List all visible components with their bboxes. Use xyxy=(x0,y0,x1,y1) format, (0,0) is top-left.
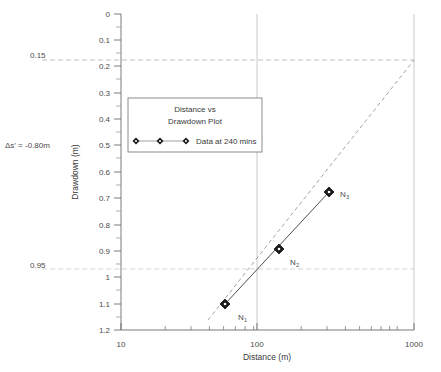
legend-title-line1: Distance vs xyxy=(174,105,215,114)
point-label-n2: N 2 xyxy=(290,258,299,268)
point-label-n3: N 3 xyxy=(340,190,349,200)
y-tick-label-0.4: 0.4 xyxy=(99,115,111,124)
y-tick-label-0.1: 0.1 xyxy=(99,36,111,45)
legend-entry-label: Data at 240 mins xyxy=(196,137,256,146)
reference-label-0.15: 0.15 xyxy=(30,51,46,60)
y-axis-title: Drawdown (m) xyxy=(70,144,80,199)
y-tick-label-1.1: 1.1 xyxy=(99,300,111,309)
point-label-n2-sub: 2 xyxy=(296,262,299,268)
chart-legend: Distance vs Drawdown Plot Data at 240 mi… xyxy=(128,98,262,152)
y-tick-label-0.2: 0.2 xyxy=(99,62,111,71)
distance-vs-drawdown-chart: 0 0.1 0.2 0.3 0.4 0.5 0.6 0.7 0.8 0.9 1 … xyxy=(0,0,441,372)
x-axis-title: Distance (m) xyxy=(243,352,291,362)
delta-s-annotation: Δs' = -0.80m xyxy=(5,141,50,150)
legend-title-line2: Drawdown Plot xyxy=(168,117,223,126)
data-point-n2[interactable] xyxy=(274,244,284,254)
y-tick-label-0.5: 0.5 xyxy=(99,141,111,150)
x-tick-label-1000: 1000 xyxy=(405,340,423,349)
y-tick-label-0.9: 0.9 xyxy=(99,247,111,256)
point-label-n1-sub: 1 xyxy=(244,317,247,323)
y-tick-label-1.2: 1.2 xyxy=(99,326,111,335)
point-label-n1: N 1 xyxy=(238,313,247,323)
y-tick-label-0.7: 0.7 xyxy=(99,194,111,203)
y-axis-major-ticks xyxy=(114,14,121,330)
point-label-n3-sub: 3 xyxy=(346,194,349,200)
x-tick-label-10: 10 xyxy=(117,340,126,349)
chart-svg: 0 0.1 0.2 0.3 0.4 0.5 0.6 0.7 0.8 0.9 1 … xyxy=(0,0,441,372)
y-tick-label-0: 0 xyxy=(106,10,111,19)
y-tick-label-1: 1 xyxy=(106,273,111,282)
y-tick-label-0.8: 0.8 xyxy=(99,221,111,230)
reference-label-0.95: 0.95 xyxy=(30,261,46,270)
y-tick-label-0.3: 0.3 xyxy=(99,89,111,98)
x-axis-ticks xyxy=(121,323,414,330)
x-tick-label-100: 100 xyxy=(250,340,264,349)
y-tick-label-0.6: 0.6 xyxy=(99,168,111,177)
